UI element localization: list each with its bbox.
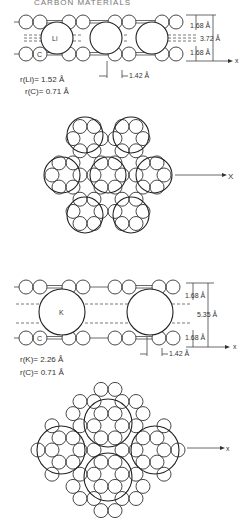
dim-top: 1.68 Å [185, 291, 206, 299]
dim-spacing: 1.42 Å [169, 349, 190, 357]
intercalation-figure: CARBON MATERIALS [0, 0, 243, 532]
dim-bottom: 1.68 Å [185, 333, 206, 341]
axis-x-label: X [228, 172, 234, 181]
radius-c: r(C)= 0.71 Å [25, 87, 69, 96]
radius-c: r(C)= 0.71 Å [20, 368, 64, 377]
panel-li-side-view: Li C x 1.68 Å 3.72 Å 1.68 Å 1.42 Å r(Li)… [14, 15, 239, 96]
axis-x-label: x [233, 343, 237, 350]
dim-top: 1.68 Å [190, 21, 211, 29]
axis-x-label: x [235, 57, 239, 64]
radius-k: r(K)= 2.26 Å [20, 355, 64, 364]
li-ion [136, 22, 168, 54]
carbon-label: C [37, 335, 42, 342]
carbon-label: C [37, 51, 42, 58]
dim-mid: 3.72 Å [200, 34, 221, 42]
header-title: CARBON MATERIALS [34, 0, 131, 7]
li-label: Li [52, 35, 58, 42]
panel-li-plan-view [44, 117, 172, 233]
k-label: K [59, 309, 64, 316]
dim-spacing: 1.42 Å [129, 71, 150, 79]
k-ion [127, 289, 173, 335]
dim-bottom: 1.68 Å [190, 48, 211, 56]
radius-li: r(Li)= 1.52 Å [20, 75, 65, 84]
axis-x-label: x [226, 445, 230, 452]
panel-k-side-view: K C x 1.68 Å 5.35 Å 1.68 Å 1.42 Å r(K)= … [14, 280, 237, 377]
dim-mid: 5.35 Å [197, 310, 218, 318]
li-ion [90, 22, 122, 54]
panel-k-plan-view [31, 382, 185, 517]
